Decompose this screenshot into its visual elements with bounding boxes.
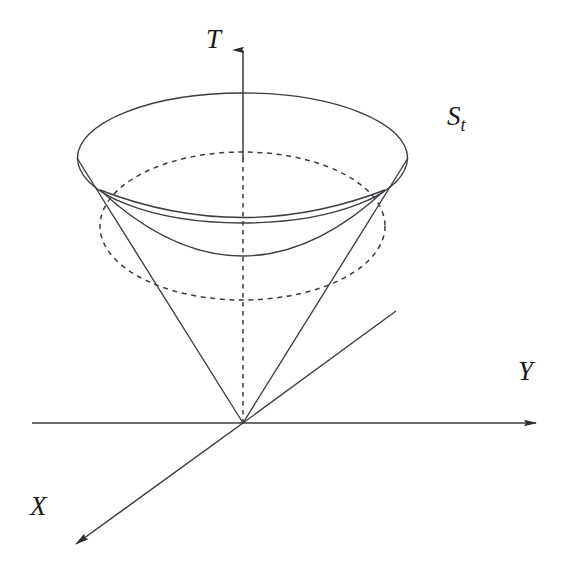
t-axis-label: T: [206, 26, 221, 53]
diagram-canvas: [0, 0, 576, 577]
cone-right-generator: [243, 158, 408, 423]
y-axis-label: Y: [518, 358, 533, 385]
x-axis-line: [76, 423, 243, 544]
null-ray-line: [243, 311, 396, 423]
x-axis-label: X: [30, 493, 47, 520]
surface-label: St: [447, 103, 466, 134]
surface-label-subscript: t: [461, 115, 466, 135]
cone-left-generator: [77, 158, 243, 423]
light-cone-figure: T St Y X: [0, 0, 576, 577]
surface-label-base: S: [447, 101, 461, 131]
